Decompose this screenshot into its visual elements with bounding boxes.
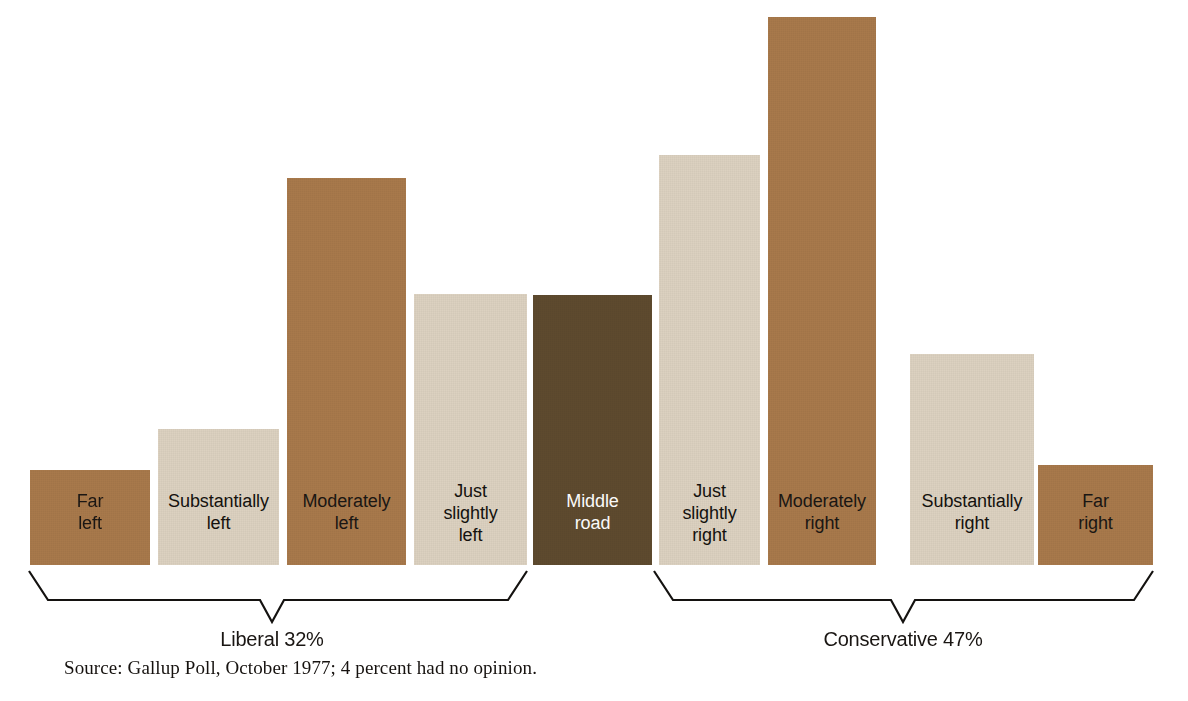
brace-conservative <box>654 571 1153 622</box>
bar-far-right: Far right <box>1038 465 1153 565</box>
bar-label-middle-road: Middle road <box>564 491 620 535</box>
bar-middle-road: Middle road <box>533 295 652 565</box>
bar-moderately-left: Moderately left <box>287 178 406 565</box>
group-label-conservative: Conservative 47% <box>823 628 982 651</box>
chart-canvas: Far leftSubstantially leftModerately lef… <box>0 0 1188 701</box>
bar-label-substantially-left: Substantially left <box>166 491 271 535</box>
bar-label-just-slightly-left: Just slightly left <box>441 481 499 547</box>
bar-moderately-right: Moderately right <box>768 17 876 565</box>
bar-label-moderately-right: Moderately right <box>776 491 868 535</box>
bar-label-far-left: Far left <box>75 491 106 535</box>
bar-far-left: Far left <box>30 470 150 565</box>
bar-substantially-right: Substantially right <box>910 354 1034 565</box>
bar-just-slightly-left: Just slightly left <box>414 294 527 565</box>
bar-label-moderately-left: Moderately left <box>300 491 392 535</box>
bar-label-far-right: Far right <box>1076 491 1115 535</box>
group-label-liberal: Liberal 32% <box>220 628 323 651</box>
bar-just-slightly-right: Just slightly right <box>659 155 760 565</box>
bar-label-substantially-right: Substantially right <box>920 491 1025 535</box>
bar-label-just-slightly-right: Just slightly right <box>680 481 738 547</box>
brace-liberal <box>29 571 527 622</box>
source-note: Source: Gallup Poll, October 1977; 4 per… <box>64 657 537 679</box>
bar-substantially-left: Substantially left <box>158 429 279 565</box>
